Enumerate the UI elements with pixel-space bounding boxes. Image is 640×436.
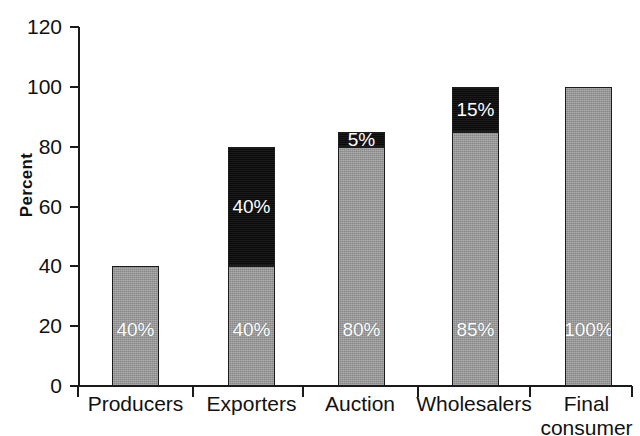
y-axis-tick-label: 80 <box>0 135 70 159</box>
bar-segment-label: 40% <box>232 320 270 339</box>
bar-segment: 15% <box>452 87 499 132</box>
bar-segment-label: 80% <box>342 320 380 339</box>
bar-segment-label: 100% <box>565 320 612 339</box>
y-axis-tick-label: 20 <box>0 314 70 338</box>
y-axis-tick-label: 120 <box>0 15 70 39</box>
bar-segment: 85% <box>452 132 499 386</box>
bar-segment: 40% <box>112 266 159 386</box>
bar-segment: 40% <box>228 147 275 267</box>
bar-segment-label: 40% <box>232 197 270 216</box>
y-axis-tick-label: 100 <box>0 75 70 99</box>
bar-segment-label: 5% <box>348 132 375 147</box>
y-axis-line <box>78 27 80 386</box>
y-axis-tick-label: 0 <box>0 374 70 398</box>
y-axis-tick-label: 60 <box>0 195 70 219</box>
y-axis-tick-label: 40 <box>0 254 70 278</box>
bar-segment-label: 40% <box>116 320 154 339</box>
x-axis-category-label: Final consumer <box>512 392 640 436</box>
stacked-bar-chart: Percent 020406080100120 40%40%40%80%5%85… <box>0 0 640 436</box>
bar-segment: 5% <box>338 132 385 147</box>
bar-segment: 80% <box>338 147 385 386</box>
bar-segment-label: 15% <box>456 100 494 119</box>
bar-segment: 40% <box>228 266 275 386</box>
bar-segment: 100% <box>565 87 612 386</box>
bar-segment-label: 85% <box>456 320 494 339</box>
